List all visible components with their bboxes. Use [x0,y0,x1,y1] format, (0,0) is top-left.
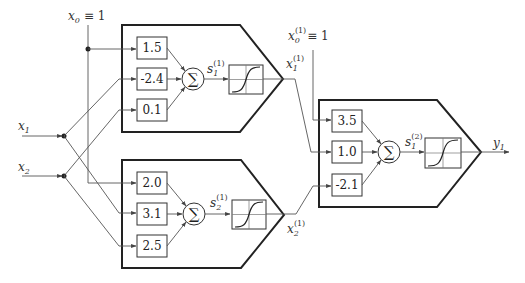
weight-value: 3.5 [337,114,356,128]
weight-value: 0.1 [142,103,161,117]
x1-label: x1 [18,119,30,135]
weight-value: 1.0 [337,145,356,159]
neural-network-diagram: 1.5 -2.4 0.1 ∑ s1(1) 2.0 3.1 2.5 [0,0,525,283]
hidden-output-1-label: x1(1) [286,54,304,73]
weight-value: 2.0 [142,176,161,190]
sum-symbol: ∑ [384,143,395,161]
weight-value: -2.4 [140,72,164,86]
hidden-bias-label: x0(1)≡ 1 [288,26,329,45]
output-y1-label: y1 [492,136,505,152]
sum-symbol: ∑ [189,205,200,223]
sum-symbol: ∑ [188,70,199,88]
weight-value: 1.5 [142,41,161,55]
sigmoid-icon [425,138,461,168]
hidden-output-2-label: x2(1) [287,219,305,238]
weight-value: -2.1 [335,178,358,192]
weight-value: 3.1 [142,207,161,221]
sigmoid-icon [232,200,266,229]
sigmoid-icon [229,65,263,94]
weight-value: 2.5 [142,239,161,253]
x0-label: x0≡ 1 [68,9,105,25]
x2-label: x2 [18,160,30,176]
